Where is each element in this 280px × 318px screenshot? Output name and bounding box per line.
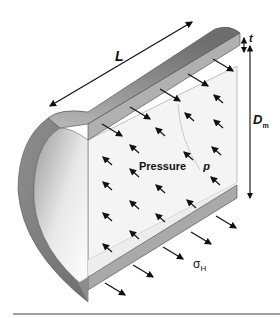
diameter-label: Dm [253,112,269,129]
length-label: L [115,48,124,64]
thickness-label: t [249,32,253,44]
hoop-stress-subscript: H [200,264,206,273]
pressure-symbol: p [203,160,210,172]
hoop-stress-label: σH [193,257,206,273]
cylinder-diagram [0,0,280,318]
diameter-symbol: D [253,112,262,127]
pressure-label: Pressure p [139,160,210,172]
pressure-word: Pressure [139,160,186,172]
diameter-subscript: m [262,122,268,129]
